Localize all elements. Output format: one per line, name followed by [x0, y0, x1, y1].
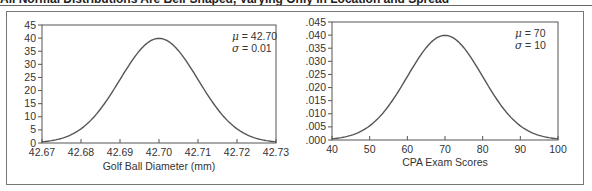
y-tick-label: 45 — [24, 19, 36, 31]
normal-distribution-charts: 051015202530354045 42.6742.6842.6942.704… — [0, 0, 592, 191]
y-tick-label: .040 — [306, 29, 327, 41]
x-tick-label: 60 — [401, 143, 413, 155]
y-tick-label: 30 — [24, 58, 36, 70]
y-tick-label: 5 — [30, 123, 36, 135]
y-tick-label: .035 — [306, 42, 327, 54]
sigma-annotation: σ = 10 — [515, 39, 546, 51]
x-tick-label: 100 — [549, 143, 567, 155]
y-tick-label: .025 — [306, 68, 327, 80]
y-tick-label: 25 — [24, 71, 36, 83]
y-tick-label: .045 — [306, 16, 327, 28]
x-tick-label: 40 — [326, 143, 338, 155]
y-tick-label: .005 — [306, 120, 327, 132]
x-tick-label: 42.72 — [224, 146, 250, 158]
y-tick-label: .000 — [306, 134, 327, 146]
y-tick-label: .030 — [306, 55, 327, 67]
x-tick-label: 70 — [439, 143, 451, 155]
cpa-exam-chart: .000.005.010.015.020.025.030.035.040.045… — [306, 16, 567, 169]
y-axis-ticks: 051015202530354045 — [24, 19, 42, 149]
x-tick-label: 42.68 — [68, 146, 94, 158]
mu-annotation: μ = 70 — [515, 27, 546, 39]
x-axis-title: CPA Exam Scores — [402, 156, 488, 168]
x-axis-ticks: 405060708090100 — [326, 136, 567, 155]
sigma-annotation: σ = 0.01 — [232, 42, 272, 54]
y-tick-label: 15 — [24, 97, 36, 109]
y-axis-ticks: .000.005.010.015.020.025.030.035.040.045 — [306, 16, 332, 146]
x-tick-label: 42.73 — [263, 146, 289, 158]
x-tick-label: 42.67 — [29, 146, 55, 158]
x-tick-label: 42.70 — [146, 146, 172, 158]
y-tick-label: .015 — [306, 94, 327, 106]
mu-annotation: μ = 42.70 — [232, 30, 277, 42]
x-tick-label: 90 — [514, 143, 526, 155]
y-tick-label: .020 — [306, 81, 327, 93]
x-axis-ticks: 42.6742.6842.6942.7042.7142.7242.73 — [29, 139, 289, 158]
y-tick-label: 35 — [24, 45, 36, 57]
x-tick-label: 42.69 — [107, 146, 133, 158]
y-tick-label: 40 — [24, 32, 36, 44]
y-tick-label: 20 — [24, 84, 36, 96]
y-tick-label: .010 — [306, 107, 327, 119]
golf-ball-chart: 051015202530354045 42.6742.6842.6942.704… — [24, 19, 289, 173]
x-axis-title: Golf Ball Diameter (mm) — [103, 160, 216, 172]
x-tick-label: 80 — [477, 143, 489, 155]
x-tick-label: 50 — [364, 143, 376, 155]
y-tick-label: 10 — [24, 110, 36, 122]
x-tick-label: 42.71 — [185, 146, 211, 158]
